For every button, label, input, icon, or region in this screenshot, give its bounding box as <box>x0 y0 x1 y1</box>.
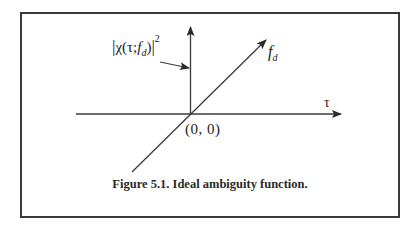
ambiguity-function-label: |χ(τ;fd)|2 <box>112 38 160 58</box>
doppler-axis <box>132 40 266 172</box>
pointer-arrow <box>160 62 189 68</box>
origin-label: (0, 0) <box>185 122 221 137</box>
doppler-axis-label: fd <box>268 44 277 63</box>
ambiguity-diagram <box>0 0 416 228</box>
chi-prefix: χ(τ; <box>115 39 137 55</box>
delay-axis-label: τ <box>324 96 330 110</box>
fd-sub: d <box>272 52 277 63</box>
chi-exponent: 2 <box>155 33 160 44</box>
figure-caption: Figure 5.1. Ideal ambiguity function. <box>20 177 400 192</box>
